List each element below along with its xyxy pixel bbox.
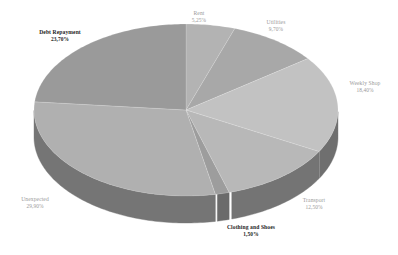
- slice-label-weekly-shop: Weekly Shop 18,40%: [336, 80, 394, 93]
- pie-chart-canvas: Rent 5,25% Utilities 9,70% Weekly Shop 1…: [0, 0, 398, 255]
- slice-label-utilities-name: Utilities: [248, 19, 304, 26]
- slice-label-unexpected: Unexpected 29,90%: [6, 196, 64, 209]
- slice-label-rent-name: Rent: [173, 10, 225, 17]
- slice-label-transport: Transport 12,50%: [286, 197, 342, 210]
- pie-top-slices: [34, 24, 338, 196]
- slice-label-utilities: Utilities 9,70%: [248, 19, 304, 32]
- slice-label-debt-repayment: Debt Repayment 23,70%: [20, 29, 100, 42]
- slice-label-clothing-and-shoes-value: 1,50%: [208, 231, 294, 237]
- slice-label-debt-repayment-name: Debt Repayment: [20, 29, 100, 36]
- slice-label-weekly-shop-value: 18,40%: [336, 87, 394, 93]
- pie-side-wall: [217, 192, 229, 221]
- slice-label-debt-repayment-value: 23,70%: [20, 36, 100, 42]
- slice-label-unexpected-name: Unexpected: [6, 196, 64, 203]
- slice-label-rent: Rent 5,25%: [173, 10, 225, 23]
- slice-label-transport-value: 12,50%: [286, 204, 342, 210]
- slice-label-unexpected-value: 29,90%: [6, 203, 64, 209]
- slice-label-transport-name: Transport: [286, 197, 342, 204]
- slice-label-clothing-and-shoes: Clothing and Shoes 1,50%: [208, 224, 294, 237]
- slice-label-clothing-and-shoes-name: Clothing and Shoes: [208, 224, 294, 231]
- slice-label-rent-value: 5,25%: [173, 17, 225, 23]
- slice-label-weekly-shop-name: Weekly Shop: [336, 80, 394, 87]
- slice-label-utilities-value: 9,70%: [248, 26, 304, 32]
